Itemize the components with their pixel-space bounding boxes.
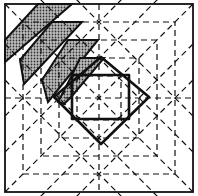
crease-pattern-diagram (0, 0, 198, 196)
